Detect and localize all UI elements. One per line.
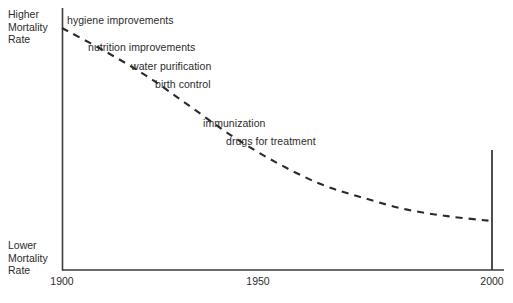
annotation-hygiene-improvements: hygiene improvements [67, 14, 174, 27]
annotation-nutrition-improvements: nutrition improvements [88, 41, 195, 54]
annotation-immunization: immunization [203, 117, 265, 130]
annotation-drugs-for-treatment: drugs for treatment [226, 135, 316, 148]
mortality-decline-chart: Higher Mortality Rate Lower Mortality Ra… [0, 0, 513, 303]
annotation-birth-control: birth control [155, 78, 211, 91]
annotation-water-purification: water purification [131, 60, 211, 73]
